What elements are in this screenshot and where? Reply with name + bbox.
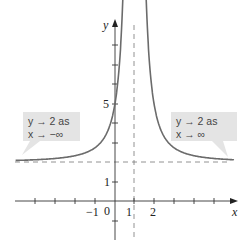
x-tick-label-0: 0 [104,204,110,218]
left-annotation: y → 2 as x → −∞ [22,112,80,155]
right-annotation: y → 2 as x → ∞ [171,112,237,157]
y-axis-label: y [102,18,109,32]
right-annotation-line1: y → 2 as [176,115,217,127]
x-tick-label-2: 2 [150,205,156,219]
x-axis-arrow-icon [230,198,238,204]
y-tick-label-5: 5 [103,97,109,111]
x-tick-label-1: 1 [126,205,132,219]
right-annotation-line2: x → ∞ [176,128,205,140]
x-axis-label: x [231,205,238,219]
left-annotation-line2: x → −∞ [28,128,63,140]
chart-svg: y → 2 as x → −∞ y → 2 as x → ∞ −1 0 [0,0,249,249]
y-axis-arrow-icon [112,19,118,27]
left-annotation-line1: y → 2 as [28,115,69,127]
y-tick-label-1: 1 [104,175,110,189]
x-tick-label-neg1: −1 [86,205,99,219]
chart-figure: y → 2 as x → −∞ y → 2 as x → ∞ −1 0 [0,0,249,249]
